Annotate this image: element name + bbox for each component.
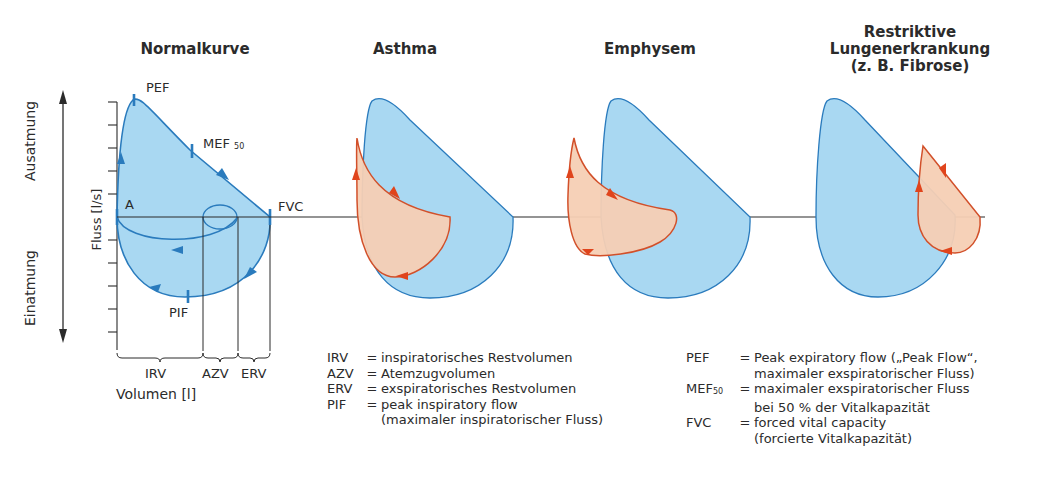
legend-row-mef50-cont: bei 50 % der Vitalkapazität: [686, 400, 978, 416]
legend-eq: =: [736, 415, 754, 431]
legend-row-irv: IRV = inspiratorisches Restvolumen: [327, 350, 603, 366]
title-line-2: Lungenerkrankung: [820, 41, 1000, 58]
legend-def: Peak expiratory flow („Peak Flow“,: [754, 350, 978, 366]
restriktiv-disease-loop: [918, 146, 980, 253]
legend-def: inspiratorisches Restvolumen: [381, 350, 573, 366]
legend-eq: =: [363, 350, 381, 366]
title-line-1: Restriktive: [820, 24, 1000, 41]
legend-abbr: PEF: [686, 350, 736, 366]
y-axis-label: Fluss [l/s]: [89, 180, 104, 260]
legend-right: PEF = Peak expiratory flow („Peak Flow“,…: [686, 350, 978, 446]
x-axis-label: Volumen [l]: [116, 386, 196, 402]
panel-title-asthma: Asthma: [355, 41, 455, 58]
legend-abbr: AZV: [327, 366, 363, 382]
panel-title-emphysem: Emphysem: [590, 41, 710, 58]
legend-eq: =: [363, 397, 381, 413]
legend-abbr: IRV: [327, 350, 363, 366]
legend-row-pif: PIF = peak inspiratory flow: [327, 397, 603, 413]
pef-label: PEF: [146, 80, 170, 95]
legend-def: (maximaler inspiratorischer Fluss): [381, 412, 603, 428]
azv-label: AZV: [202, 366, 229, 381]
irv-label: IRV: [145, 366, 166, 381]
legend-def: peak inspiratory flow: [381, 397, 518, 413]
mef-text: MEF: [203, 136, 230, 151]
legend-abbr: ERV: [327, 381, 363, 397]
legend-row-erv: ERV = exspiratorisches Restvolumen: [327, 381, 603, 397]
restriktiv-curve: [816, 99, 980, 297]
mef50-label: MEF 50: [203, 136, 244, 151]
normal-loop-fill: [117, 99, 270, 297]
legend-def: maximaler exspiratorischer Fluss: [754, 381, 970, 400]
legend-eq: =: [363, 381, 381, 397]
legend-eq: =: [736, 350, 754, 366]
legend-row-mef50: MEF50 = maximaler exspiratorischer Fluss: [686, 381, 978, 400]
legend-def: Atemzugvolumen: [381, 366, 495, 382]
legend-abbr-sub: 50: [713, 387, 723, 396]
direction-down-label: Einatmung: [22, 248, 38, 328]
pif-label: PIF: [169, 305, 188, 320]
mef-subscript: 50: [234, 142, 244, 151]
legend-eq: =: [736, 381, 754, 400]
legend-row-pif-cont: (maximaler inspiratorischer Fluss): [327, 412, 603, 428]
legend-def: exspiratorisches Restvolumen: [381, 381, 576, 397]
normal-curve: [117, 94, 270, 351]
asthma-curve: [352, 99, 513, 298]
legend-row-fvc: FVC = forced vital capacity: [686, 415, 978, 431]
legend-abbr: MEF50: [686, 381, 736, 400]
legend-abbr: PIF: [327, 397, 363, 413]
panel-title-normal: Normalkurve: [125, 41, 265, 58]
title-line-3: (z. B. Fibrose): [820, 58, 1000, 75]
legend-row-pef-cont: maximaler exspiratorischer Fluss): [686, 366, 978, 382]
legend-row-fvc-cont: (forcierte Vitalkapazität): [686, 431, 978, 447]
legend-def: bei 50 % der Vitalkapazität: [754, 400, 930, 416]
legend-def: forced vital capacity: [754, 415, 886, 431]
y-axis: [108, 102, 117, 350]
legend-left: IRV = inspiratorisches Restvolumen AZV =…: [327, 350, 603, 428]
panel-title-restriktiv: Restriktive Lungenerkrankung (z. B. Fibr…: [820, 24, 1000, 75]
legend-abbr-text: MEF: [686, 381, 713, 396]
direction-arrow: [59, 90, 67, 343]
direction-up-label: Ausatmung: [22, 101, 38, 181]
emphysem-curve: [566, 99, 750, 298]
legend-def: maximaler exspiratorischer Fluss): [754, 366, 975, 382]
fvc-label: FVC: [278, 199, 303, 214]
legend-row-azv: AZV = Atemzugvolumen: [327, 366, 603, 382]
legend-row-pef: PEF = Peak expiratory flow („Peak Flow“,: [686, 350, 978, 366]
a-label: A: [125, 197, 134, 212]
erv-label: ERV: [241, 366, 266, 381]
legend-eq: =: [363, 366, 381, 382]
legend-abbr: FVC: [686, 415, 736, 431]
volume-braces: [117, 353, 270, 362]
legend-def: (forcierte Vitalkapazität): [754, 431, 912, 447]
